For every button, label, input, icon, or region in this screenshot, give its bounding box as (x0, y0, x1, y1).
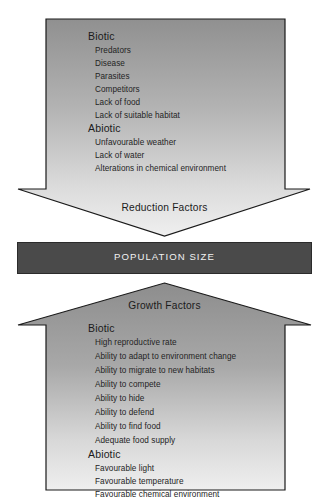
growth-biotic-item-high-reproductive-rate: High reproductive rate (95, 338, 177, 347)
reduction-biotic-item-predators: Predators (95, 46, 131, 55)
reduction-biotic-item-lack-of-food: Lack of food (95, 98, 140, 107)
growth-biotic-heading: Biotic (88, 322, 115, 334)
reduction-biotic-item-parasites: Parasites (95, 72, 130, 81)
reduction-biotic-item-lack-of-suitable-habitat: Lack of suitable habitat (95, 111, 180, 120)
reduction-abiotic-item-lack-of-water: Lack of water (95, 151, 144, 160)
growth-abiotic-heading: Abiotic (88, 448, 121, 460)
diagram-shapes (0, 0, 329, 498)
reduction-biotic-item-competitors: Competitors (95, 85, 140, 94)
growth-biotic-item-ability-to-find-food: Ability to find food (95, 422, 161, 431)
growth-factors-caption: Growth Factors (0, 300, 329, 311)
reduction-biotic-heading: Biotic (88, 30, 115, 42)
reduction-factors-caption: Reduction Factors (0, 202, 329, 213)
growth-biotic-item-adequate-food-supply: Adequate food supply (95, 436, 175, 445)
reduction-abiotic-item-unfavourable-weather: Unfavourable weather (95, 138, 176, 147)
growth-biotic-item-ability-to-hide: Ability to hide (95, 394, 144, 403)
growth-abiotic-item-favourable-chemical-environment: Favourable chemical environment (95, 490, 219, 498)
population-regulation-diagram: Biotic Predators Disease Parasites Compe… (0, 0, 329, 498)
reduction-abiotic-heading: Abiotic (88, 122, 121, 134)
population-size-label: POPULATION SIZE (0, 251, 329, 262)
growth-abiotic-item-favourable-temperature: Favourable temperature (95, 477, 183, 486)
reduction-abiotic-item-alterations-in-chemical-environment: Alterations in chemical environment (95, 164, 226, 173)
growth-biotic-item-ability-to-compete: Ability to compete (95, 380, 161, 389)
growth-biotic-item-ability-to-adapt: Ability to adapt to environment change (95, 352, 236, 361)
growth-biotic-item-ability-to-migrate: Ability to migrate to new habitats (95, 366, 215, 375)
growth-abiotic-item-favourable-light: Favourable light (95, 464, 154, 473)
growth-factors-arrow (18, 283, 311, 490)
reduction-biotic-item-disease: Disease (95, 59, 125, 68)
growth-biotic-item-ability-to-defend: Ability to defend (95, 408, 154, 417)
